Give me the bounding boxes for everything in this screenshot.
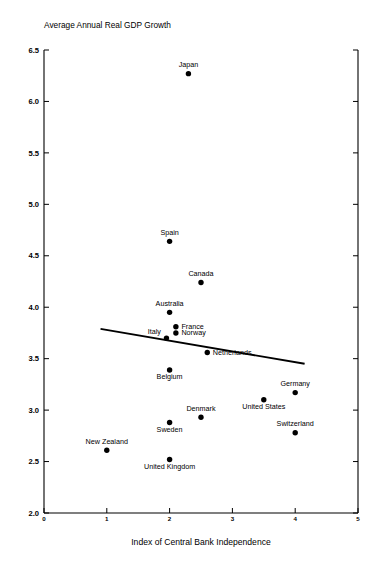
data-point-marker — [198, 280, 203, 285]
data-point-label: Denmark — [186, 404, 216, 413]
y-axis-ticks: 2.02.53.03.54.04.55.05.56.06.5 — [28, 46, 49, 518]
y-tick-label: 5.5 — [28, 149, 39, 158]
data-point-label: Belgium — [157, 372, 183, 381]
data-point: New Zealand — [86, 437, 128, 453]
data-point-marker — [198, 415, 203, 420]
chart-title: Average Annual Real GDP Growth — [44, 20, 171, 30]
data-point-marker — [173, 324, 178, 329]
y-tick-label: 4.0 — [28, 303, 39, 312]
x-tick-label: 1 — [105, 515, 109, 522]
data-point: Denmark — [186, 404, 216, 420]
data-point: Belgium — [157, 367, 183, 381]
data-point-marker — [293, 430, 298, 435]
x-axis-ticks: 012345 — [42, 508, 360, 522]
right-axis-spine — [353, 50, 358, 513]
data-points-group: JapanSpainCanadaAustraliaFranceNorwayIta… — [86, 60, 314, 471]
data-point: United States — [242, 397, 286, 411]
data-point: Sweden — [157, 420, 183, 434]
y-tick-label: 4.5 — [28, 251, 39, 260]
x-tick-label: 2 — [168, 515, 172, 522]
data-point: Australia — [156, 299, 184, 315]
data-point: Japan — [179, 60, 199, 76]
data-point: Spain — [160, 228, 178, 244]
data-point-marker — [167, 310, 172, 315]
data-point-label: New Zealand — [86, 437, 128, 446]
y-tick-label: 3.5 — [28, 354, 39, 363]
y-axis: 2.02.53.03.54.04.55.05.56.06.5 — [28, 46, 49, 518]
data-point-label: United Kingdom — [144, 462, 195, 471]
data-point-label: Netherlands — [213, 348, 252, 357]
data-point-label: Germany — [280, 379, 310, 388]
data-point-label: Italy — [148, 327, 162, 336]
x-axis-title: Index of Central Bank Independence — [131, 537, 271, 547]
data-point-marker — [186, 71, 191, 76]
y-tick-label: 6.0 — [28, 97, 39, 106]
data-point-label: United States — [242, 402, 286, 411]
data-point: Norway — [173, 328, 206, 337]
data-point-label: Japan — [179, 60, 199, 69]
data-point: Switzerland — [277, 419, 314, 435]
data-point-label: Switzerland — [277, 419, 314, 428]
y-tick-label: 2.5 — [28, 457, 39, 466]
data-point-marker — [167, 239, 172, 244]
data-point: United Kingdom — [144, 457, 195, 471]
x-tick-label: 4 — [293, 515, 297, 522]
data-point-marker — [173, 330, 178, 335]
y-tick-label: 3.0 — [28, 406, 39, 415]
x-tick-label: 5 — [356, 515, 360, 522]
data-point: Canada — [188, 269, 213, 285]
y-tick-label: 2.0 — [28, 509, 39, 518]
data-point: Netherlands — [205, 348, 252, 357]
right-axis-ticks — [353, 50, 358, 513]
y-tick-label: 6.5 — [28, 46, 39, 55]
data-point-label: Canada — [188, 269, 213, 278]
data-point-marker — [205, 350, 210, 355]
data-point-label: Australia — [156, 299, 184, 308]
x-tick-label: 3 — [231, 515, 235, 522]
gdp-growth-scatter-figure: Average Annual Real GDP Growth 2.02.53.0… — [0, 0, 382, 568]
data-point-marker — [104, 448, 109, 453]
x-tick-label: 0 — [42, 515, 46, 522]
x-axis: 012345 — [42, 508, 360, 522]
data-point-marker — [164, 335, 169, 340]
data-point-marker — [293, 390, 298, 395]
data-point-label: Norway — [181, 328, 206, 337]
data-point: Germany — [280, 379, 310, 395]
data-point-label: Sweden — [157, 425, 183, 434]
scatter-plot-canvas: Average Annual Real GDP Growth 2.02.53.0… — [0, 0, 382, 568]
y-tick-label: 5.0 — [28, 200, 39, 209]
data-point-label: Spain — [160, 228, 178, 237]
